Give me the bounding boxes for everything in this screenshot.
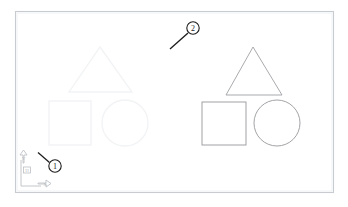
right-triangle[interactable]	[226, 47, 282, 95]
drawing-frame-inner-shadow	[17, 13, 332, 191]
right-circle[interactable]	[254, 100, 300, 146]
callout-2-leader-line	[170, 33, 188, 49]
cad-drawing-screenshot: Y X H 1 2	[0, 0, 348, 207]
callout-1-leader-line	[38, 153, 50, 163]
left-circle[interactable]	[102, 100, 148, 146]
callout-1-label: 1	[53, 162, 57, 171]
callout-2-label: 2	[191, 24, 195, 33]
ucs-x-axis-label: X	[43, 182, 47, 187]
left-square[interactable]	[49, 101, 91, 145]
drawing-canvas[interactable]: Y X H 1 2	[0, 0, 348, 207]
ucs-axis-icon[interactable]: Y X H	[20, 150, 51, 187]
callout-2[interactable]: 2	[170, 22, 199, 49]
right-shape-group[interactable]	[202, 47, 300, 146]
ucs-origin-marker-label: H	[25, 168, 29, 173]
ucs-y-axis-label: Y	[22, 156, 26, 161]
right-square[interactable]	[202, 102, 246, 145]
callout-1[interactable]: 1	[38, 153, 61, 173]
left-triangle[interactable]	[69, 47, 132, 92]
left-shape-group[interactable]	[49, 47, 148, 146]
